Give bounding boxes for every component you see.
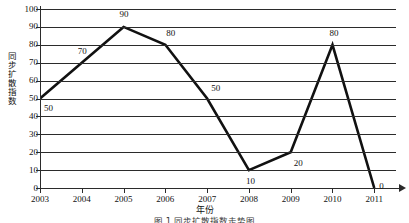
x-axis-title: 年份 [0, 205, 409, 215]
x-tick-label: 2010 [315, 194, 349, 204]
y-tick-mark [36, 116, 40, 117]
x-tick-mark [40, 189, 41, 193]
gridline [40, 9, 396, 10]
x-tick-mark [332, 189, 333, 193]
x-tick-label: 2007 [190, 194, 224, 204]
gridline [40, 116, 396, 117]
data-point-label: 50 [211, 84, 220, 93]
data-point-label: 90 [120, 10, 129, 19]
y-tick-label: 0 [16, 184, 38, 193]
y-tick-label: 60 [16, 76, 38, 85]
data-point-label: 70 [78, 47, 87, 56]
y-tick-label: 90 [16, 22, 38, 31]
x-tick-mark [82, 189, 83, 193]
x-tick-mark [249, 189, 250, 193]
y-tick-mark [36, 99, 40, 100]
data-point-label: 20 [294, 159, 303, 168]
y-tick-label: 20 [16, 148, 38, 157]
data-point-label: 50 [44, 104, 53, 113]
gridline [40, 152, 396, 153]
data-point-label: 80 [329, 29, 338, 38]
gridline [40, 45, 396, 46]
x-tick-label: 2004 [65, 194, 99, 204]
x-tick-mark [165, 189, 166, 193]
y-tick-label: 40 [16, 112, 38, 121]
gridline [40, 170, 396, 171]
data-point-label: 80 [166, 29, 175, 38]
y-tick-mark [36, 9, 40, 10]
y-tick-mark [36, 45, 40, 46]
x-tick-label: 2006 [148, 194, 182, 204]
x-tick-label: 2011 [357, 194, 391, 204]
gridline [40, 134, 396, 135]
gridline [40, 63, 396, 64]
figure-caption: 图 1 同步扩散指数走势图 [0, 216, 409, 223]
x-tick-mark [124, 189, 125, 193]
x-tick-mark [207, 189, 208, 193]
y-tick-label: 50 [16, 94, 38, 103]
x-axis-line [40, 188, 403, 189]
y-axis-tick-labels: 0102030405060708090100 [14, 0, 38, 223]
gridline [40, 99, 396, 100]
plot-area [40, 9, 396, 188]
y-tick-label: 10 [16, 166, 38, 175]
x-tick-mark [291, 189, 292, 193]
y-tick-mark [36, 81, 40, 82]
y-tick-mark [36, 170, 40, 171]
y-tick-label: 100 [16, 5, 38, 14]
x-axis-arrow-icon [399, 184, 406, 192]
line-chart: 同步扩散指数 0102030405060708090100 2003200420… [0, 0, 409, 223]
data-point-label: 0 [379, 182, 384, 191]
x-tick-label: 2003 [23, 194, 57, 204]
gridline [40, 27, 396, 28]
y-tick-label: 70 [16, 58, 38, 67]
y-tick-mark [36, 152, 40, 153]
y-tick-mark [36, 63, 40, 64]
x-tick-label: 2009 [274, 194, 308, 204]
y-tick-label: 30 [16, 130, 38, 139]
data-point-label: 10 [246, 177, 255, 186]
x-tick-mark [374, 189, 375, 193]
x-tick-label: 2005 [107, 194, 141, 204]
y-tick-mark [36, 134, 40, 135]
gridline [40, 81, 396, 82]
x-tick-label: 2008 [232, 194, 266, 204]
y-tick-mark [36, 27, 40, 28]
y-tick-label: 80 [16, 40, 38, 49]
